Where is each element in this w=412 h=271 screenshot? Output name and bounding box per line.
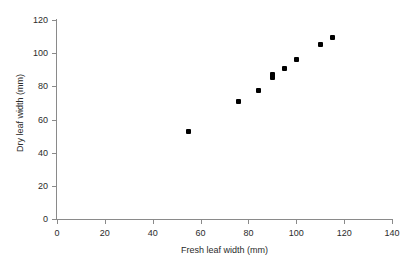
x-axis-tick-label: 140: [377, 228, 407, 238]
y-axis-tick: [52, 186, 56, 187]
x-axis-tick: [201, 220, 202, 224]
y-axis-tick-label: 120: [14, 15, 48, 25]
y-axis-tick: [52, 153, 56, 154]
y-axis-tick-label: 0: [14, 214, 48, 224]
x-axis-tick: [57, 220, 58, 224]
data-point: [318, 42, 323, 47]
y-axis-title: Dry leaf width (mm): [15, 43, 25, 183]
data-point: [236, 99, 241, 104]
x-axis-tick: [153, 220, 154, 224]
data-point: [270, 75, 275, 80]
y-axis-tick: [52, 219, 56, 220]
y-axis-tick: [52, 120, 56, 121]
x-axis-tick: [105, 220, 106, 224]
x-axis-tick-label: 20: [90, 228, 120, 238]
x-axis-line: [56, 219, 393, 220]
x-axis-tick-label: 40: [138, 228, 168, 238]
x-axis-tick-label: 0: [42, 228, 72, 238]
x-axis-title: Fresh leaf width (mm): [57, 245, 392, 255]
data-point: [330, 35, 335, 40]
data-point: [186, 129, 191, 134]
x-axis-tick: [392, 220, 393, 224]
x-axis-tick-label: 80: [233, 228, 263, 238]
x-axis-tick-label: 60: [186, 228, 216, 238]
x-axis-tick: [248, 220, 249, 224]
x-axis-tick-label: 120: [329, 228, 359, 238]
data-point: [256, 88, 261, 93]
x-axis-tick: [344, 220, 345, 224]
y-axis-tick: [52, 86, 56, 87]
scatter-chart: 020406080100120 020406080100120140 Fresh…: [0, 0, 412, 271]
x-axis-tick: [296, 220, 297, 224]
data-point: [282, 66, 287, 71]
y-axis-tick: [52, 20, 56, 21]
y-axis-tick: [52, 53, 56, 54]
x-axis-tick-label: 100: [281, 228, 311, 238]
plot-area: [57, 20, 392, 219]
data-point: [294, 57, 299, 62]
